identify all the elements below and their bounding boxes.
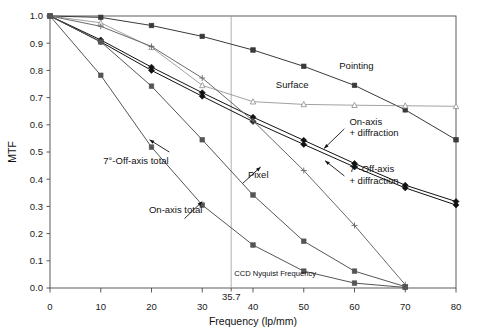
y-tick-label: 0.4 <box>30 174 43 185</box>
data-marker <box>301 141 307 147</box>
data-marker <box>251 193 256 198</box>
data-marker <box>98 40 103 45</box>
chart-canvas: 0.00.10.20.30.40.50.60.70.80.91.00102030… <box>0 0 481 330</box>
off-axis-diffraction-label: + diffraction <box>349 175 398 186</box>
pointing-label: Pointing <box>339 60 373 71</box>
off-axis-total-label: 7°-Off-axis total <box>103 155 168 166</box>
series-line <box>50 16 405 285</box>
series-line <box>50 16 405 287</box>
y-tick-label: 1.0 <box>30 10 43 21</box>
data-marker <box>454 137 459 142</box>
surface-label: Surface <box>276 79 309 90</box>
data-marker <box>149 84 154 89</box>
y-tick-label: 0.5 <box>30 146 43 157</box>
y-tick-label: 0.0 <box>30 282 43 293</box>
data-marker <box>48 14 53 19</box>
x-tick-label: 40 <box>248 301 259 312</box>
x-tick-label: 70 <box>400 301 411 312</box>
x-tick-label: 10 <box>95 301 106 312</box>
data-marker <box>200 34 205 39</box>
data-marker <box>301 64 306 69</box>
y-axis-title: MTF <box>6 141 18 163</box>
y-tick-label: 0.8 <box>30 65 43 76</box>
x-tick-label-nyquist: 35.7 <box>222 291 241 302</box>
data-marker <box>98 73 103 78</box>
on-axis-diffraction-label: On-axis <box>349 116 382 127</box>
data-marker <box>453 202 459 208</box>
leader-arrowhead <box>149 140 154 144</box>
series-line <box>50 16 405 287</box>
x-tick-label: 50 <box>298 301 309 312</box>
data-marker <box>403 285 408 290</box>
on-axis-diffraction-label: + diffraction <box>349 127 398 138</box>
nyquist-line-label: CCD Nyquist Frequency <box>234 269 316 278</box>
x-tick-label: 80 <box>451 301 462 312</box>
series-pixel <box>47 13 408 288</box>
x-tick-label: 0 <box>47 301 52 312</box>
data-marker <box>352 83 357 88</box>
arrow-on-axis-diffraction <box>324 129 344 149</box>
off-axis-diffraction-label: 7°-Off-axis <box>349 163 394 174</box>
y-tick-label: 0.7 <box>30 92 43 103</box>
y-tick-label: 0.6 <box>30 119 43 130</box>
arrow-off-axis-diffraction <box>325 161 344 176</box>
y-tick-label: 0.9 <box>30 38 43 49</box>
y-tick-label: 0.1 <box>30 255 43 266</box>
data-marker <box>352 281 357 286</box>
data-marker <box>352 269 357 274</box>
series-on-axis-total <box>48 14 408 289</box>
data-marker <box>149 23 154 28</box>
x-axis-title: Frequency (lp/mm) <box>209 315 297 327</box>
data-marker <box>98 15 103 20</box>
series-surface <box>47 13 458 109</box>
series-line <box>50 16 456 106</box>
data-marker <box>251 243 256 248</box>
data-marker <box>200 137 205 142</box>
data-marker <box>251 48 256 53</box>
series-7-off-axis-total <box>48 14 408 290</box>
y-tick-label: 0.3 <box>30 201 43 212</box>
data-marker <box>149 145 154 150</box>
x-tick-label: 60 <box>349 301 360 312</box>
data-marker <box>200 82 205 87</box>
mtf-chart-figure: 0.00.10.20.30.40.50.60.70.80.91.00102030… <box>0 0 481 330</box>
x-tick-label: 20 <box>146 301 157 312</box>
x-tick-label: 30 <box>197 301 208 312</box>
data-marker <box>301 239 306 244</box>
y-tick-label: 0.2 <box>30 228 43 239</box>
